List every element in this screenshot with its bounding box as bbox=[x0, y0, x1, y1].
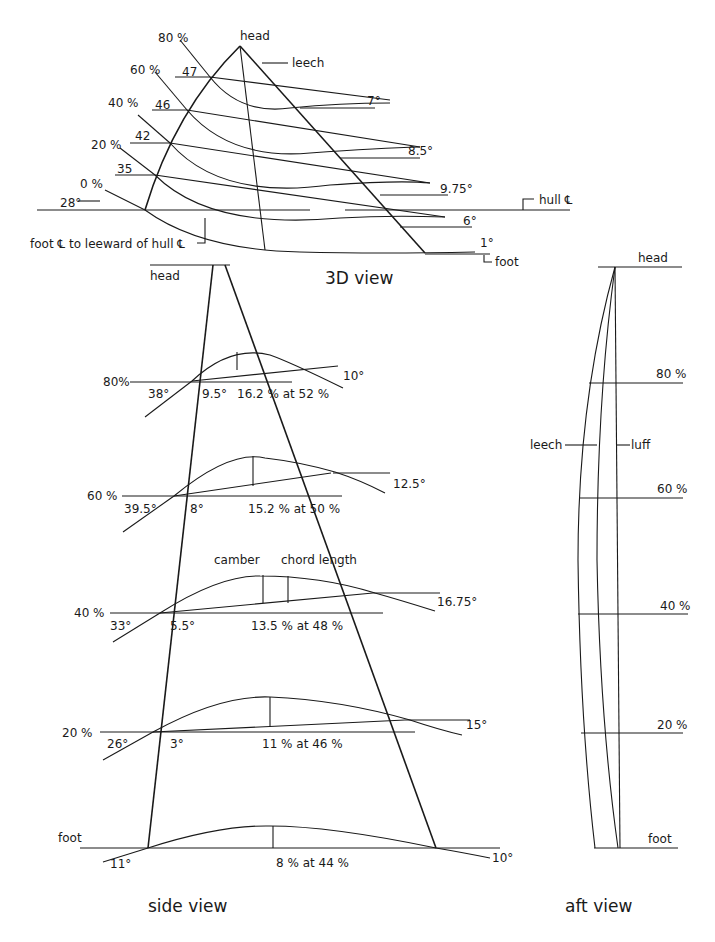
camber-40: 13.5 % at 48 % bbox=[251, 619, 343, 633]
leech-label-3d: leech bbox=[292, 56, 324, 70]
chord-20 bbox=[155, 175, 445, 217]
chord-angle-40: 5.5° bbox=[170, 619, 195, 633]
camber-60: 15.2 % at 50 % bbox=[248, 502, 340, 516]
aft-view: head 80 % 60 % 40 % 20 % foot leech luff… bbox=[530, 251, 691, 916]
chord-80-side bbox=[192, 366, 338, 381]
entry-80: 38° bbox=[148, 387, 169, 401]
foot-label-3d: foot bbox=[495, 255, 519, 269]
sail-diagram: hull ℄ leech head 80 % 60 % bbox=[0, 0, 715, 942]
luff-side bbox=[148, 265, 213, 848]
head-label-side: head bbox=[150, 269, 180, 283]
foot-note: foot ℄ to leeward of hull ℄ bbox=[30, 237, 185, 251]
camber-20: 11 % at 46 % bbox=[262, 737, 343, 751]
title-3d-view: 3D view bbox=[325, 268, 394, 288]
station-80-3d: 80 % bbox=[158, 31, 189, 45]
head-label-3d: head bbox=[240, 29, 270, 43]
luff-label-aft: luff bbox=[631, 438, 651, 452]
title-aft-view: aft view bbox=[565, 896, 632, 916]
chord-angle-80: 9.5° bbox=[202, 387, 227, 401]
head-label-aft: head bbox=[638, 251, 668, 265]
aft-station-80: 80 % bbox=[656, 367, 687, 381]
leech-inner-aft bbox=[597, 267, 618, 848]
entry-40: 33° bbox=[110, 619, 131, 633]
aft-station-40: 40 % bbox=[660, 599, 691, 613]
station-foot-side: foot bbox=[58, 831, 82, 845]
station-40-side: 40 % bbox=[74, 606, 105, 620]
station-0-3d: 0 % bbox=[80, 177, 103, 191]
camber-label: camber bbox=[214, 553, 260, 567]
entry-20: 26° bbox=[107, 737, 128, 751]
profile-40 bbox=[160, 576, 435, 613]
aft-station-60: 60 % bbox=[657, 482, 688, 496]
profile-foot bbox=[148, 826, 490, 858]
station-60-3d: 60 % bbox=[130, 63, 161, 77]
diag-0 bbox=[105, 190, 145, 210]
angle-40-3d: 42 bbox=[135, 129, 150, 143]
twist-40-3d: 9.75° bbox=[440, 182, 473, 196]
angle-0-3d: 28° bbox=[60, 196, 81, 210]
twist-foot-3d: 1° bbox=[480, 236, 494, 250]
section-40 bbox=[170, 143, 430, 188]
entry-60: 39.5° bbox=[124, 502, 157, 516]
exit-foot: 10° bbox=[492, 851, 513, 865]
exit-60: 12.5° bbox=[393, 477, 426, 491]
camber-80: 16.2 % at 52 % bbox=[237, 387, 329, 401]
station-40-3d: 40 % bbox=[108, 96, 139, 110]
twist-80-3d: 7° bbox=[367, 94, 381, 108]
angle-60-3d: 46 bbox=[155, 98, 170, 112]
foot-leader-3d bbox=[484, 255, 492, 262]
foot-note-leader bbox=[197, 218, 205, 243]
chord-20-side bbox=[153, 720, 405, 732]
twist-20-3d: 6° bbox=[463, 214, 477, 228]
camber-foot: 8 % at 44 % bbox=[276, 856, 349, 870]
mid-line-3d bbox=[240, 46, 265, 250]
exit-80: 10° bbox=[343, 369, 364, 383]
chord-40 bbox=[170, 143, 430, 183]
chord-angle-60: 8° bbox=[190, 502, 204, 516]
chord-60 bbox=[187, 110, 420, 147]
leech-label-aft: leech bbox=[530, 438, 562, 452]
chord-40-side bbox=[160, 593, 373, 613]
luff-aft bbox=[615, 267, 620, 848]
station-80-side: 80% bbox=[103, 375, 130, 389]
side-view: head 80% 38° 9.5° 16.2 % at 52 % 10° 60 … bbox=[58, 265, 513, 916]
entry-foot: 11° bbox=[110, 857, 131, 871]
hull-label: hull ℄ bbox=[539, 193, 573, 207]
chord-angle-20: 3° bbox=[170, 737, 184, 751]
profile-60 bbox=[174, 457, 385, 496]
exit-40: 16.75° bbox=[437, 595, 477, 609]
twist-60-3d: 8.5° bbox=[408, 144, 433, 158]
title-side-view: side view bbox=[148, 896, 227, 916]
exit-20: 15° bbox=[466, 718, 487, 732]
leech-3d bbox=[240, 46, 425, 253]
angle-20-3d: 35 bbox=[117, 162, 132, 176]
view-3d: hull ℄ leech head 80 % 60 % bbox=[30, 29, 573, 288]
section-80 bbox=[210, 77, 390, 109]
chord-length-label: chord length bbox=[281, 553, 357, 567]
chord-80 bbox=[210, 77, 390, 100]
station-20-3d: 20 % bbox=[91, 138, 122, 152]
station-20-side: 20 % bbox=[62, 726, 93, 740]
station-60-side: 60 % bbox=[87, 489, 118, 503]
angle-80-3d: 47 bbox=[182, 65, 197, 79]
hull-leader bbox=[523, 199, 534, 210]
aft-station-20: 20 % bbox=[657, 718, 688, 732]
aft-station-foot: foot bbox=[648, 832, 672, 846]
